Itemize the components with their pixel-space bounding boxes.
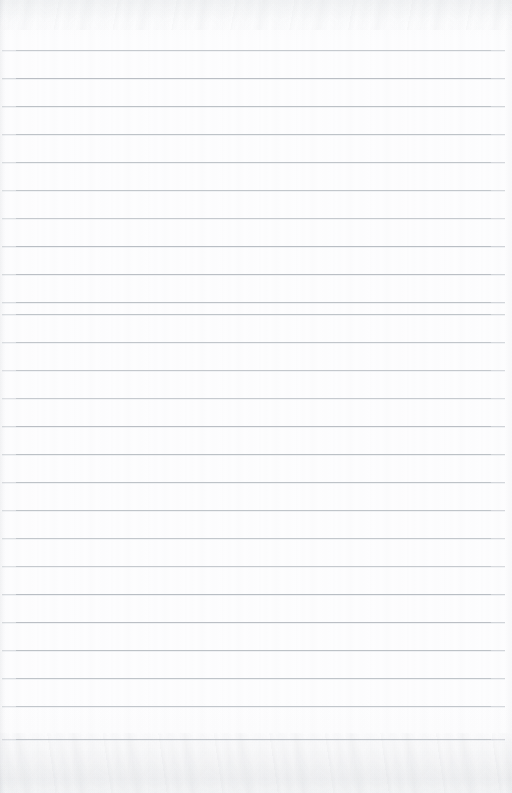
rule-line	[2, 342, 505, 343]
rule-line	[2, 739, 505, 740]
rule-line	[2, 302, 505, 303]
rule-line	[2, 246, 505, 247]
rule-line	[2, 50, 505, 51]
rule-line	[2, 106, 505, 107]
rule-line	[2, 370, 505, 371]
rule-line	[2, 454, 505, 455]
rule-line	[2, 650, 505, 651]
ruled-lines-group	[0, 0, 512, 793]
rule-line	[2, 218, 505, 219]
rule-line	[2, 678, 505, 679]
rule-line	[2, 538, 505, 539]
rule-line	[2, 426, 505, 427]
rule-line	[2, 134, 505, 135]
rule-line	[2, 510, 505, 511]
rule-line	[2, 78, 505, 79]
rule-line	[2, 482, 505, 483]
ruled-paper-page	[0, 0, 512, 793]
rule-line	[2, 594, 505, 595]
rule-line	[2, 566, 505, 567]
rule-line	[2, 162, 505, 163]
rule-line	[2, 314, 505, 315]
rule-line	[2, 190, 505, 191]
rule-line	[2, 274, 505, 275]
rule-line	[2, 706, 505, 707]
rule-line	[2, 622, 505, 623]
rule-line	[2, 398, 505, 399]
